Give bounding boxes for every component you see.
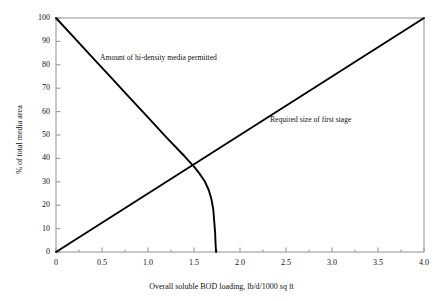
- series-annotation-first-stage-size: Required size of first stage: [270, 115, 351, 124]
- y-tick-label: 100: [18, 14, 50, 22]
- plot-background: [0, 0, 443, 301]
- x-tick-label: 0: [54, 259, 58, 267]
- x-tick-label: 3.5: [373, 259, 383, 267]
- x-axis-title: Overall soluble BOD loading, lb/d/1000 s…: [0, 282, 443, 291]
- x-tick-label: 2.0: [235, 259, 245, 267]
- series-annotation-hi-density-media: Amount of hi-density media permitted: [100, 53, 217, 62]
- y-tick-label: 10: [18, 225, 50, 233]
- y-tick-label: 0: [18, 248, 50, 256]
- chart-figure: 0102030405060708090100 00.51.01.52.02.53…: [0, 0, 443, 301]
- x-tick-label: 4.0: [419, 259, 429, 267]
- x-tick-label: 1.0: [143, 259, 153, 267]
- x-tick-label: 1.5: [189, 259, 199, 267]
- x-tick-label: 3.0: [327, 259, 337, 267]
- y-tick-label: 80: [18, 61, 50, 69]
- x-tick-label: 2.5: [281, 259, 291, 267]
- y-tick-label: 90: [18, 37, 50, 45]
- x-tick-label: 0.5: [97, 259, 107, 267]
- plot-canvas: [0, 0, 443, 301]
- y-axis-title: % of total media area: [15, 75, 24, 205]
